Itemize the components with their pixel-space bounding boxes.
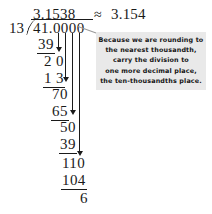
callout-line-1: Because we are rounding to [98, 35, 204, 45]
step-value-8: 110 [62, 155, 85, 172]
divisor-value: 13 [9, 20, 24, 37]
step-value-5: 65 [52, 103, 68, 120]
long-division-worksheet: 3.1538 ≈ 3.154 13 41.0000 39 2 0 1 3 70 … [0, 0, 212, 214]
bring-down-arrow-2 [65, 33, 66, 78]
callout-line-2: the nearest thousandth, [98, 45, 204, 55]
callout-line-4: one more decimal place, [98, 66, 204, 76]
step-value-6: 50 [60, 119, 76, 136]
step-value-1: 39 [38, 36, 54, 53]
step-value-2: 2 0 [44, 53, 64, 70]
rounded-answer: 3.154 [111, 6, 146, 23]
bring-down-arrow-1 [58, 33, 59, 48]
step-value-7: 39 [60, 136, 76, 153]
bring-down-arrow-3 [72, 33, 73, 111]
bring-down-arrow-4 [79, 33, 80, 152]
step-value-4: 70 [52, 86, 68, 103]
callout-line-5: the ten-thousandths place. [98, 76, 204, 86]
step-value-9: 104 [62, 172, 86, 189]
remainder-value: 6 [80, 190, 88, 207]
explanation-callout: Because we are rounding to the nearest t… [96, 32, 206, 90]
approximately-equal-icon: ≈ [94, 7, 102, 23]
callout-line-3: carry the division to [98, 55, 204, 65]
step-value-3: 1 3 [44, 70, 64, 87]
